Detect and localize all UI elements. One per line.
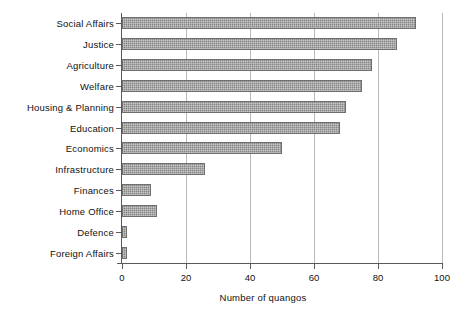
category-label: Infrastructure [55, 164, 114, 175]
y-axis-line [121, 13, 122, 264]
x-axis-tick [186, 264, 187, 269]
bar[interactable] [122, 247, 127, 259]
category-label: Welfare [80, 80, 114, 91]
y-axis-tick [116, 253, 122, 254]
x-axis-tick [378, 264, 379, 269]
x-axis-tick-label: 80 [373, 272, 384, 283]
bar[interactable] [122, 205, 157, 217]
category-label: Justice [83, 39, 114, 50]
bar[interactable] [122, 38, 397, 50]
bar[interactable] [122, 80, 362, 92]
x-axis-tick [250, 264, 251, 269]
x-axis-tick [442, 264, 443, 269]
category-label: Defence [77, 226, 114, 237]
category-label: Home Office [59, 205, 114, 216]
plot-area [122, 13, 442, 263]
gridline [186, 13, 187, 263]
category-label: Social Affairs [56, 18, 114, 29]
x-axis-tick-label: 100 [434, 272, 450, 283]
x-axis-title: Number of quangos [0, 292, 466, 303]
gridline [314, 13, 315, 263]
y-axis-tick [116, 169, 122, 170]
x-axis-tick-label: 40 [245, 272, 256, 283]
y-axis-tick [116, 148, 122, 149]
x-axis-title-text: Number of quangos [220, 292, 307, 303]
category-label: Economics [66, 143, 114, 154]
x-axis-tick [122, 264, 123, 269]
bar[interactable] [122, 59, 372, 71]
category-label: Foreign Affairs [50, 247, 114, 258]
y-axis-tick [116, 44, 122, 45]
bar[interactable] [122, 163, 205, 175]
y-axis-tick [116, 107, 122, 108]
category-label: Finances [74, 185, 114, 196]
gridline [442, 13, 443, 263]
x-axis-tick-label: 0 [119, 272, 124, 283]
bar[interactable] [122, 17, 416, 29]
category-axis-labels: Social AffairsJusticeAgricultureWelfareH… [0, 0, 114, 319]
category-label: Agriculture [66, 60, 114, 71]
y-axis-tick [116, 232, 122, 233]
category-label: Housing & Planning [27, 101, 114, 112]
y-axis-tick [116, 211, 122, 212]
y-axis-tick [116, 65, 122, 66]
bar[interactable] [122, 226, 127, 238]
bar[interactable] [122, 142, 282, 154]
gridline [250, 13, 251, 263]
x-axis-tick-label: 60 [309, 272, 320, 283]
x-axis-tick-label: 20 [181, 272, 192, 283]
y-axis-tick [116, 86, 122, 87]
bar[interactable] [122, 122, 340, 134]
y-axis-tick [116, 128, 122, 129]
gridline [378, 13, 379, 263]
y-axis-tick [116, 23, 122, 24]
bar[interactable] [122, 101, 346, 113]
bar-chart: Social AffairsJusticeAgricultureWelfareH… [0, 0, 466, 319]
category-label: Education [70, 122, 114, 133]
x-axis-line [117, 263, 443, 264]
x-axis-tick [314, 264, 315, 269]
y-axis-tick [116, 190, 122, 191]
bar[interactable] [122, 184, 151, 196]
